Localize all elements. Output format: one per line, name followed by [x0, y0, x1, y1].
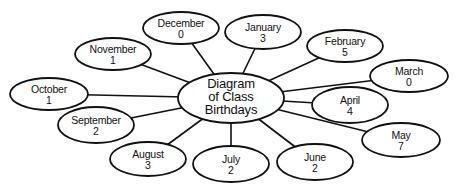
birthday-count: 1: [46, 94, 52, 106]
node-august: August3: [110, 142, 186, 176]
birthday-count: 2: [312, 162, 318, 174]
birthday-count: 0: [178, 28, 184, 40]
node-may: May7: [362, 123, 440, 157]
birthday-count: 2: [93, 125, 99, 137]
node-july: July2: [193, 146, 269, 182]
birthday-count: 2: [228, 164, 234, 176]
node-november: November1: [75, 38, 151, 70]
birthday-count: 0: [406, 76, 412, 88]
node-march: March0: [370, 60, 448, 92]
node-april: April4: [312, 87, 388, 123]
node-june: June2: [277, 144, 353, 180]
node-september: September2: [58, 107, 134, 143]
class-birthdays-diagram: January3February5March0April4May7June2Ju…: [0, 0, 455, 192]
birthday-count: 7: [398, 140, 404, 152]
birthday-count: 3: [145, 159, 151, 171]
node-january: January3: [225, 15, 301, 49]
birthday-count: 1: [110, 54, 116, 66]
center-title-line-3: Birthdays: [205, 102, 258, 117]
birthday-count: 5: [342, 46, 348, 58]
node-october: October1: [10, 78, 88, 110]
birthday-count: 4: [347, 105, 353, 117]
node-february: February5: [307, 30, 383, 62]
birthday-count: 3: [260, 32, 266, 44]
center-node: Diagram of Class Birthdays: [178, 73, 284, 123]
node-december: December0: [143, 12, 219, 44]
